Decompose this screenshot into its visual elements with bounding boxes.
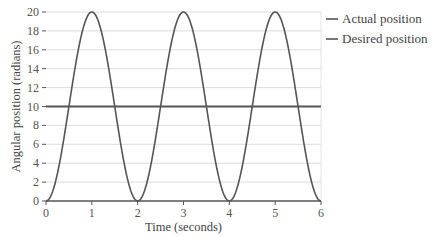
data-series <box>46 12 321 201</box>
y-tick-label: 14 <box>27 62 39 76</box>
y-tick-label: 10 <box>27 100 39 114</box>
legend-label-actual: Actual position <box>342 11 422 26</box>
gridlines <box>46 12 321 182</box>
legend-item-actual: Actual position <box>326 11 422 26</box>
x-axis-title: Time (seconds) <box>145 220 222 234</box>
x-tick-label: 3 <box>181 206 187 220</box>
x-tick-label: 1 <box>89 206 95 220</box>
y-axis-ticks: 02468101214161820 <box>27 5 46 208</box>
y-tick-label: 6 <box>33 137 39 151</box>
x-tick-label: 0 <box>43 206 49 220</box>
y-tick-label: 8 <box>33 118 39 132</box>
legend-label-desired: Desired position <box>342 31 428 46</box>
y-tick-label: 4 <box>33 156 39 170</box>
y-tick-label: 2 <box>33 175 39 189</box>
chart: 02468101214161820 0123456 Time (seconds)… <box>0 0 434 237</box>
legend-item-desired: Desired position <box>326 31 428 46</box>
y-axis-title: Angular position (radians) <box>9 41 23 173</box>
x-tick-label: 5 <box>272 206 278 220</box>
y-tick-label: 20 <box>27 5 39 19</box>
x-tick-label: 6 <box>318 206 324 220</box>
y-tick-label: 12 <box>27 81 39 95</box>
y-tick-label: 16 <box>27 43 39 57</box>
x-tick-label: 4 <box>226 206 232 220</box>
legend: Actual position Desired position <box>326 11 428 46</box>
x-axis-ticks: 0123456 <box>43 201 324 220</box>
x-tick-label: 2 <box>135 206 141 220</box>
y-tick-label: 18 <box>27 24 39 38</box>
y-tick-label: 0 <box>33 194 39 208</box>
